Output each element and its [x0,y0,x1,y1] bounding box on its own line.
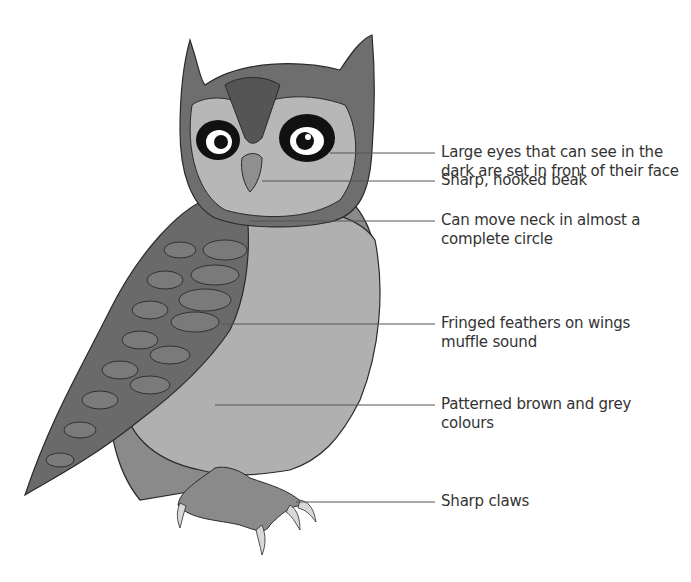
label-feathers: Fringed feathers on wings muffle sound [441,314,630,352]
label-beak: Sharp, hooked beak [441,171,587,190]
label-claws: Sharp claws [441,492,529,511]
owl-illustration [0,0,691,582]
label-neck: Can move neck in almost a complete circl… [441,211,640,249]
label-colours: Patterned brown and grey colours [441,395,631,433]
